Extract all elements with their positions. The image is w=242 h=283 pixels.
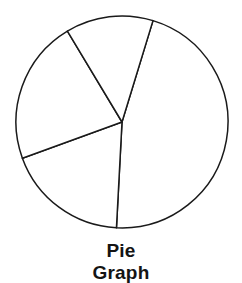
caption-line-1: Pie (0, 240, 242, 262)
chart-caption: Pie Graph (0, 240, 242, 283)
caption-line-2: Graph (0, 262, 242, 283)
pie-graph-figure: Pie Graph (0, 0, 242, 283)
pie-slices (16, 16, 228, 228)
pie-chart (0, 0, 242, 240)
